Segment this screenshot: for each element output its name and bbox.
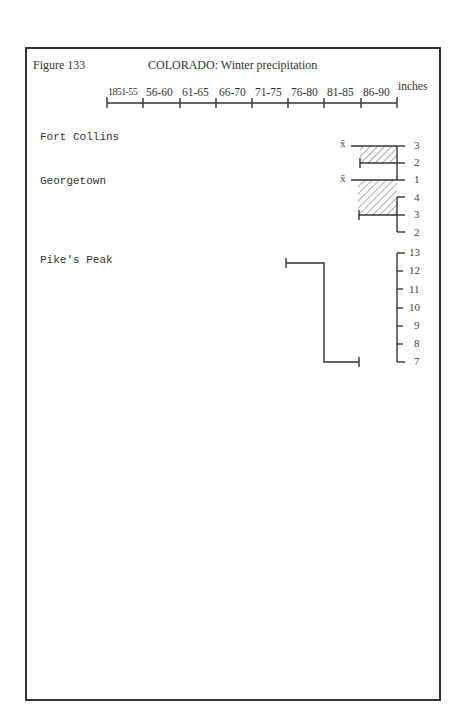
fort-collins-series: [351, 146, 405, 180]
pikes-peak-step-line: [286, 263, 359, 362]
georgetown-hatch: [358, 180, 397, 215]
fort-collins-hatch: [360, 146, 397, 163]
chart-graphics: [0, 0, 465, 722]
pikes-peak-series: [286, 253, 405, 367]
georgetown-series: [351, 180, 405, 232]
time-axis: [107, 97, 397, 108]
